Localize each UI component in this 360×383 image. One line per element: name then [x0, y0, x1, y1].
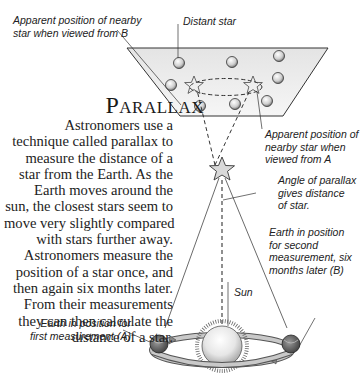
label-sun: Sun [234, 286, 253, 299]
body-line: Earth moves around the [4, 182, 173, 198]
body-text: Astronomers use a technique called paral… [4, 117, 173, 345]
distant-star-icon [230, 99, 241, 110]
distant-star-icon [262, 96, 273, 107]
page-title: Parallax [64, 92, 204, 119]
label-angle-of-parallax: Angle of parallax gives distance of star… [278, 174, 356, 212]
distant-star-icon [274, 51, 285, 62]
body-line: From their measurements [4, 296, 173, 312]
label-earth-b: Earth in position for second measurement… [269, 226, 352, 276]
body-line: move very slightly compared [4, 215, 173, 231]
label-distant-star: Distant star [183, 15, 236, 28]
body-line: they can then calculate the [4, 313, 173, 329]
body-line: Astronomers measure the [4, 247, 173, 263]
body-line: star from the Earth. As the [4, 166, 173, 182]
distant-star-icon [273, 73, 284, 84]
label-apparent-position-a: Apparent position of nearby star when vi… [265, 128, 358, 166]
body-line: distance of a star. [4, 329, 173, 345]
nearby-star-icon [210, 157, 235, 180]
body-line: measure the distance of a [4, 150, 173, 166]
label-apparent-position-b: Apparent position of nearby star when vi… [13, 14, 141, 39]
body-line: with stars further away. [4, 231, 173, 247]
earth-b-icon [282, 335, 300, 353]
body-line: Astronomers use a [4, 117, 173, 133]
distant-star-icon [174, 58, 185, 69]
body-line: technique called parallax to [4, 133, 173, 149]
body-line: position of a star once, and [4, 264, 173, 280]
body-line: sun, the closest stars seem to [4, 198, 173, 214]
body-line: then again six months later. [4, 280, 173, 296]
distant-star-icon [227, 57, 238, 68]
